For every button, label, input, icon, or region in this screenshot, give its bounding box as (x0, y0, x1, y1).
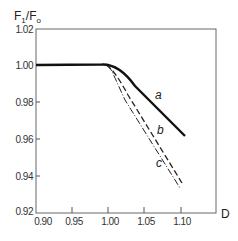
curve-c-label: c (156, 156, 162, 170)
y-tick-label: 0.98 (16, 97, 34, 108)
curve-c (108, 65, 180, 188)
y-axis-ticks (36, 65, 40, 176)
x-tick-label: 1.10 (173, 216, 191, 227)
x-axis-ticks (72, 207, 181, 213)
y-tick-label: 0.92 (16, 206, 34, 217)
plot-frame (36, 29, 216, 213)
y-tick-label: 1.00 (16, 60, 34, 71)
x-axis-tick-labels: 0.90 0.95 1.00 1.05 1.10 (34, 216, 191, 227)
y-axis-tick-labels: 1.02 1.00 0.98 0.96 0.94 0.92 (16, 24, 34, 217)
x-tick-label: 0.90 (34, 216, 52, 227)
x-axis-title: D (221, 207, 230, 221)
y-tick-label: 1.02 (16, 24, 34, 35)
y-tick-label: 0.96 (16, 134, 34, 145)
x-tick-label: 0.95 (65, 216, 83, 227)
curve-a-label: a (155, 88, 162, 102)
y-tick-label: 0.94 (16, 171, 34, 182)
curve-b (106, 65, 182, 183)
x-tick-label: 1.05 (137, 216, 155, 227)
curve-b-label: b (157, 123, 164, 137)
y-axis-title: F1/Fo (14, 9, 41, 25)
chart: F1/Fo 1.02 1.00 0.98 0.96 0.94 0.92 0.90… (0, 0, 238, 241)
x-tick-label: 1.00 (101, 216, 119, 227)
